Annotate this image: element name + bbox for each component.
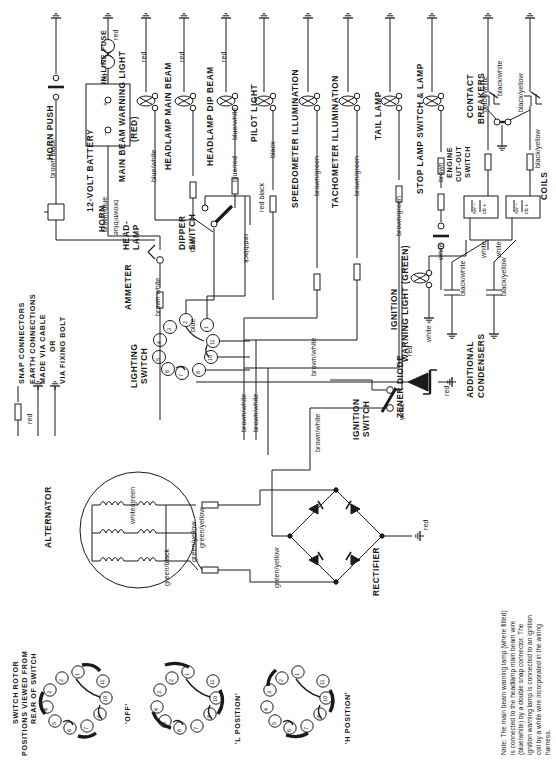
rotor-h-t6: 6 [287,729,292,732]
label-lighting-switch-1: LIGHTING [130,344,138,388]
wire-brown-blue-1: brown/blue [101,197,108,232]
lighting-switch-terminal-7[interactable]: 7 [179,374,184,377]
label-coils: COILS [540,172,548,200]
coil-terminal-sw-2: sw − [514,203,519,214]
wire-red-fuse-bottom: red [101,74,108,84]
wire-white-coil-2: white [495,241,502,258]
label-dipper-switch-1: DIPPER [178,216,186,251]
rotor-h-t3: 3 [267,691,272,694]
lighting-switch-terminal-3[interactable]: 3 [167,328,172,331]
lighting-switch-terminal-6[interactable]: 6 [165,370,170,373]
rotor-off-t7: 7 [84,727,89,730]
label-ignition-switch-1: IGNITION [352,398,360,440]
lighting-switch-terminal-5[interactable]: 5 [156,358,161,361]
wire-blue-red: blue/red [231,156,238,182]
wire-black-yellow-3: black/yellow [500,257,507,296]
rotor-heading-3: REAR OF SWITCH [30,653,37,724]
wire-brown-green-tacho: brown/green [353,156,360,196]
wire-green-yellow-1: green/yellow [198,508,205,548]
rotor-heading-1: SWITCH ROTOR [12,661,19,724]
legend-snap-connectors: SNAP CONNECTORS [18,302,25,384]
wire-brown-black: brown black [49,140,56,178]
tail-lamp-circuit [244,22,402,368]
rotor-off-t10: 10 [103,696,108,702]
wire-blue-white: blue/white [150,150,157,182]
rotor-off-t2: 2 [59,679,64,682]
label-rectifier: RECTIFIER [372,547,380,596]
label-tachometer-illumination: TACHOMETER ILLUMINATION [331,75,339,208]
lighting-switch-terminal-2[interactable]: 2 [183,321,188,324]
coil-terminal-cb-1: cb + [482,204,487,214]
battery-terminal-negative: − [102,132,109,136]
wire-green-black: green/black [163,549,170,586]
wire-blue-white-2: blue/white [231,108,238,140]
label-stop-lamp-switch: STOP LAMP SWITCH & LAMP [416,63,424,194]
label-additional-condensers-1: ADDITIONAL [466,341,474,398]
label-headlamp-dip-beam: HEADLAMP DIP BEAM [206,66,214,166]
lighting-switch-terminal-10[interactable]: 10 [208,355,213,361]
label-contact-breakers-1: CONTACT [466,74,474,118]
rotor-label-l: 'L POSITION' [234,693,241,744]
rotor-h-t7: 7 [304,727,309,730]
rotor-h-t5: 5 [272,722,277,725]
rotor-off-t11: 11 [100,679,105,685]
rotor-h-t11: 11 [320,679,325,685]
rotor-l-t11: 11 [210,679,215,685]
rotor-l-t4: 4 [154,708,159,711]
rotor-l-t2: 2 [169,679,174,682]
rotor-off-t8: 8 [97,715,102,718]
wire-white-ign-warn: white [425,325,432,342]
wire-black-white-1: black/white [481,76,488,112]
lighting-switch-wiring [160,196,250,370]
tachometer-illumination-circuit [244,22,360,340]
legend-earth-1: EARTH CONNECTIONS [29,294,36,384]
rotor-h-t4: 4 [264,708,269,711]
contact-breakers-circuit [482,22,542,196]
label-ignition-warning-1: IGNITION [390,288,398,330]
legend-earth-4: VIA FIXING BOLT [59,316,66,384]
wire-red-zener: red [443,386,450,396]
rotor-h-t2: 2 [279,679,284,682]
legend-wire-sample: red [26,414,33,424]
wire-green-yellow-2: green/yellow [273,548,280,588]
lighting-switch-terminal-8[interactable]: 8 [196,371,201,374]
wire-brown-green-tail: brown/green [395,196,402,236]
label-engine-cutout-3: SWITCH [464,146,471,178]
wiring-diagram-sheet: HORN PUSH HORN 12-VOLT BATTERY IN-LINE F… [0,0,556,761]
label-engine-cutout-1: ENGINE [446,147,453,178]
wire-black-white-2: black/white [496,60,503,96]
rotor-label-h: 'H POSITION' [344,692,351,744]
lighting-switch-terminal-11[interactable]: 11 [210,339,215,345]
label-speedometer-illumination: SPEEDOMETER ILLUMINATION [291,69,299,208]
rotor-off-t6: 6 [67,729,72,732]
wire-brown-white-4: brown/white [314,414,321,452]
label-headlamp-main-beam: HEADLAMP MAIN BEAM [164,62,172,170]
rotor-h-t10: 10 [323,696,328,702]
wire-black-yellow-2: black/yellow [534,129,541,168]
earth-symbols-row [51,14,535,22]
ammeter-circuit [148,245,163,420]
label-main-beam-warning-1: MAIN BEAM WARNING LIGHT [118,51,126,182]
label-main-beam-warning-2: (RED) [130,116,138,142]
wire-red-3: red [220,52,227,62]
wire-red-1: red [140,52,147,62]
rotor-l-t8: 8 [207,715,212,718]
rotor-heading-2: POSITIONS VIEWED FROM [21,651,28,756]
rotor-h-t1: 1 [295,673,300,676]
speedometer-illumination-circuit [244,22,320,318]
label-additional-condensers-2: CONDENSERS [477,333,485,398]
wire-brown-stop-1: brown [437,162,444,182]
label-battery: 12-VOLT BATTERY [86,129,94,212]
rotor-l-t1: 1 [185,673,190,676]
rotor-l-t3: 3 [157,691,162,694]
label-alternator: ALTERNATOR [44,486,52,548]
wire-red-fuse-top: red [112,30,119,40]
wire-red-rect: red [422,520,429,530]
label-headlamp-unit-2: LAMP [132,224,140,250]
wire-brown-white-2: brown/white [252,394,259,432]
lighting-switch-terminal-1[interactable]: 1 [204,326,209,329]
lighting-switch-terminal-4[interactable]: 4 [157,341,162,344]
wire-white-coil: white [480,241,487,258]
pilot-light-circuit [255,22,276,300]
coil-terminal-sw-1: sw − [472,203,477,214]
